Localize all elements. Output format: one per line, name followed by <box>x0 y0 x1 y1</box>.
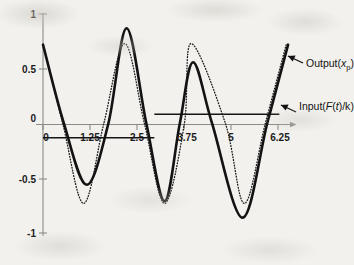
input-label-close: )/k <box>339 100 351 112</box>
y-tick-label-1: 1 <box>30 9 36 20</box>
input-label-suffix: ) <box>350 100 354 112</box>
y-tick-label-0_5: 0.5 <box>22 64 36 75</box>
reference-lines <box>43 114 279 138</box>
annotation-input: Input(F(t)/k) <box>281 100 354 112</box>
y-tick-label-0: 0 <box>30 113 36 124</box>
series-input-curve <box>43 44 286 204</box>
y-tick-label-neg1: -1 <box>27 228 36 239</box>
x-tick-label-6_25: 6.25 <box>270 132 290 143</box>
figure-canvas: 1 0.5 0 -0.5 -1 0 1.25 2.5 3.75 5 6.25 <box>0 0 354 265</box>
output-label-suffix: ) <box>350 57 354 69</box>
output-label: Output(xp) <box>306 57 354 72</box>
input-label-prefix: Input( <box>299 100 326 112</box>
output-label-prefix: Output( <box>306 57 342 69</box>
annotation-output: Output(xp) <box>288 55 354 71</box>
x-tick-label-3_75: 3.75 <box>177 132 197 143</box>
y-tick-labels: 1 0.5 0 -0.5 -1 <box>19 9 37 239</box>
vibration-response-chart: 1 0.5 0 -0.5 -1 0 1.25 2.5 3.75 5 6.25 <box>0 0 354 265</box>
y-tick-label-neg0_5: -0.5 <box>19 174 37 185</box>
x-axis-arrowhead <box>290 122 297 127</box>
input-label: Input(F(t)/k) <box>299 100 354 112</box>
